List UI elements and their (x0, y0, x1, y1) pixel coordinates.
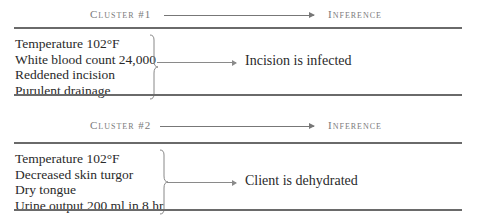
cluster-1-label: Cluster #1 (90, 8, 151, 20)
cluster-2-label: Cluster #2 (90, 119, 151, 131)
brace-icon (148, 34, 160, 100)
inference-label: Inference (328, 119, 382, 131)
header-arrow-icon (160, 126, 314, 127)
cue-item: Temperature 102°F (15, 151, 164, 167)
cue-item: Reddened incision (15, 67, 156, 83)
header-arrow-icon (164, 15, 314, 16)
inference-text: Client is dehydrated (245, 173, 358, 189)
cue-list: Temperature 102°F Decreased skin turgor … (15, 151, 164, 213)
divider (14, 94, 462, 96)
inference-label: Inference (328, 8, 382, 20)
cluster-2: Cluster #2 Inference Temperature 102°F D… (0, 111, 477, 222)
divider (14, 209, 462, 211)
cue-item: Dry tongue (15, 182, 164, 198)
cue-item: Urine output 200 ml in 8 hr (15, 198, 164, 214)
cue-list: Temperature 102°F White blood count 24,0… (15, 36, 156, 98)
inference-arrow-icon (157, 62, 236, 63)
cue-item: Temperature 102°F (15, 36, 156, 52)
divider (14, 27, 462, 29)
inference-text: Incision is infected (245, 53, 352, 69)
divider (14, 142, 462, 144)
cue-item: Decreased skin turgor (15, 167, 164, 183)
cluster-1: Cluster #1 Inference Temperature 102°F W… (0, 0, 477, 111)
cue-item: White blood count 24,000 (15, 52, 156, 68)
cue-item: Purulent drainage (15, 83, 156, 99)
inference-arrow-icon (167, 182, 236, 183)
